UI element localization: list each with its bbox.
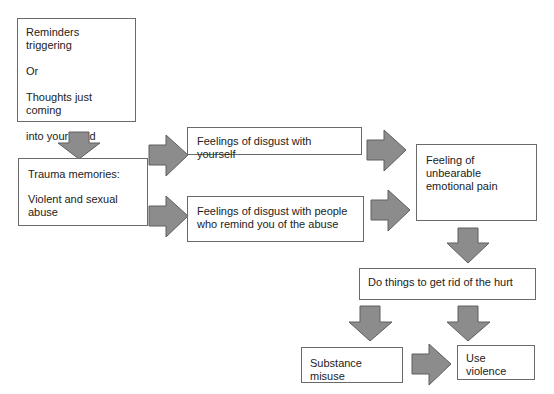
node-triggers-line-1: Reminders triggering (26, 26, 127, 52)
node-disgust-others: Feelings of disgust with people who remi… (187, 196, 364, 242)
node-trauma-title: Trauma memories: (28, 168, 138, 181)
node-triggers-line-3: Thoughts just coming (26, 91, 127, 117)
arrow-right-icon (411, 343, 453, 387)
node-trauma-memories: Trauma memories: Violent and sexual abus… (18, 158, 148, 226)
arrow-right-icon (370, 189, 412, 233)
node-violence-text: Use violence (466, 352, 526, 378)
node-triggers: Reminders triggering Or Thoughts just co… (17, 18, 136, 122)
node-substance-misuse: Substance misuse (301, 347, 403, 383)
arrow-right-icon (148, 134, 190, 178)
arrow-right-icon (366, 129, 408, 173)
node-substance-text: Substance misuse (310, 357, 394, 383)
arrow-down-icon (56, 131, 102, 161)
node-trauma-body: Violent and sexual abuse (28, 193, 138, 219)
node-disgust-yourself: Feelings of disgust with yourself (187, 127, 362, 155)
node-triggers-line-2: Or (26, 65, 127, 78)
arrow-right-icon (148, 195, 190, 239)
node-emotional-pain: Feeling of unbearable emotional pain (416, 144, 537, 221)
node-get-rid-text: Do things to get rid of the hurt (368, 276, 527, 289)
arrow-down-icon (348, 305, 394, 343)
node-disgust-others-text: Feelings of disgust with people who remi… (197, 205, 354, 231)
arrow-down-icon (446, 305, 492, 343)
node-use-violence: Use violence (457, 345, 535, 380)
node-disgust-yourself-text: Feelings of disgust with yourself (197, 135, 352, 161)
node-emotional-pain-text: Feeling of unbearable emotional pain (426, 154, 527, 193)
node-get-rid-of-hurt: Do things to get rid of the hurt (359, 268, 536, 300)
arrow-down-icon (445, 227, 491, 265)
